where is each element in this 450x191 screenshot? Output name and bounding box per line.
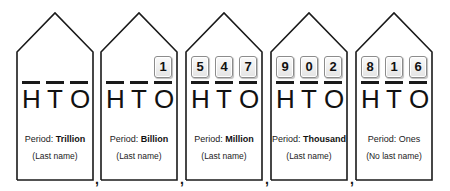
digit-tile[interactable]: 9 bbox=[276, 56, 294, 78]
digit-slot-tens: 4 bbox=[215, 56, 233, 84]
period-caption: Period: Thousand bbox=[270, 134, 348, 144]
place-label-ones: O bbox=[239, 85, 257, 113]
period-caption: Period: Billion bbox=[100, 134, 178, 144]
digit-slot-tens: 1 bbox=[385, 56, 403, 84]
period-name: Ones bbox=[399, 134, 421, 144]
place-label-tens: T bbox=[215, 85, 233, 113]
last-name-note: (Last name) bbox=[270, 151, 348, 161]
digit-tile[interactable]: 0 bbox=[300, 56, 318, 78]
period-separator-comma: , bbox=[265, 172, 269, 186]
last-name-note: (Last name) bbox=[16, 151, 94, 161]
digit-tile[interactable]: 6 bbox=[409, 56, 427, 78]
place-label-tens: T bbox=[130, 85, 148, 113]
place-label-hundreds: H bbox=[276, 85, 294, 113]
digit-slot-ones: 1 bbox=[154, 56, 172, 84]
place-label-ones: O bbox=[154, 85, 172, 113]
digit-slot-ones: 2 bbox=[324, 56, 342, 84]
place-label-ones: O bbox=[324, 85, 342, 113]
period-house-million: 5 4 7 H T O Period: Million (Last name) bbox=[185, 0, 263, 191]
place-label-hundreds: H bbox=[361, 85, 379, 113]
period-caption: Period: Ones bbox=[355, 134, 433, 144]
period-caption: Period: Trillion bbox=[16, 134, 94, 144]
digit-slot-ones bbox=[70, 56, 88, 84]
period-name: Million bbox=[225, 134, 254, 144]
place-label-hundreds: H bbox=[191, 85, 209, 113]
digit-slot-ones: 6 bbox=[409, 56, 427, 84]
period-separator-comma: , bbox=[95, 172, 99, 186]
period-separator-comma: , bbox=[350, 172, 354, 186]
place-label-hundreds: H bbox=[106, 85, 124, 113]
place-label-tens: T bbox=[385, 85, 403, 113]
digit-tile[interactable]: 5 bbox=[191, 56, 209, 78]
period-separator-comma: , bbox=[180, 172, 184, 186]
period-name: Thousand bbox=[303, 134, 346, 144]
digit-slot-hundreds bbox=[22, 56, 40, 84]
place-label-hundreds: H bbox=[22, 85, 40, 113]
period-label: Period: bbox=[272, 134, 301, 144]
period-name: Billion bbox=[141, 134, 169, 144]
period-house-trillion: H T O Period: Trillion (Last name) bbox=[16, 0, 94, 191]
digit-slot-hundreds: 9 bbox=[276, 56, 294, 84]
digit-slot-hundreds: 5 bbox=[191, 56, 209, 84]
digit-tile[interactable]: 8 bbox=[361, 56, 379, 78]
digit-slot-tens bbox=[46, 56, 64, 84]
period-label: Period: bbox=[194, 134, 223, 144]
digit-slot-hundreds: 8 bbox=[361, 56, 379, 84]
digit-tile[interactable]: 4 bbox=[215, 56, 233, 78]
place-label-ones: O bbox=[70, 85, 88, 113]
digit-slot-tens: 0 bbox=[300, 56, 318, 84]
place-label-tens: T bbox=[300, 85, 318, 113]
digit-slot-hundreds bbox=[106, 56, 124, 84]
period-house-billion: 1 H T O Period: Billion (Last name) bbox=[100, 0, 178, 191]
period-label: Period: bbox=[110, 134, 139, 144]
last-name-note: (Last name) bbox=[185, 151, 263, 161]
digit-slot-tens bbox=[130, 56, 148, 84]
last-name-note: (Last name) bbox=[100, 151, 178, 161]
period-label: Period: bbox=[25, 134, 54, 144]
digit-slot-ones: 7 bbox=[239, 56, 257, 84]
period-label: Period: bbox=[368, 134, 397, 144]
last-name-note: (No last name) bbox=[355, 151, 433, 161]
digit-tile[interactable]: 7 bbox=[239, 56, 257, 78]
digit-tile[interactable]: 1 bbox=[385, 56, 403, 78]
digit-tile[interactable]: 2 bbox=[324, 56, 342, 78]
period-caption: Period: Million bbox=[185, 134, 263, 144]
place-label-tens: T bbox=[46, 85, 64, 113]
period-house-thousand: 9 0 2 H T O Period: Thousand (Last name) bbox=[270, 0, 348, 191]
period-name: Trillion bbox=[56, 134, 86, 144]
digit-tile[interactable]: 1 bbox=[154, 56, 172, 78]
place-label-ones: O bbox=[409, 85, 427, 113]
period-house-ones: 8 1 6 H T O Period: Ones (No last name) bbox=[355, 0, 433, 191]
